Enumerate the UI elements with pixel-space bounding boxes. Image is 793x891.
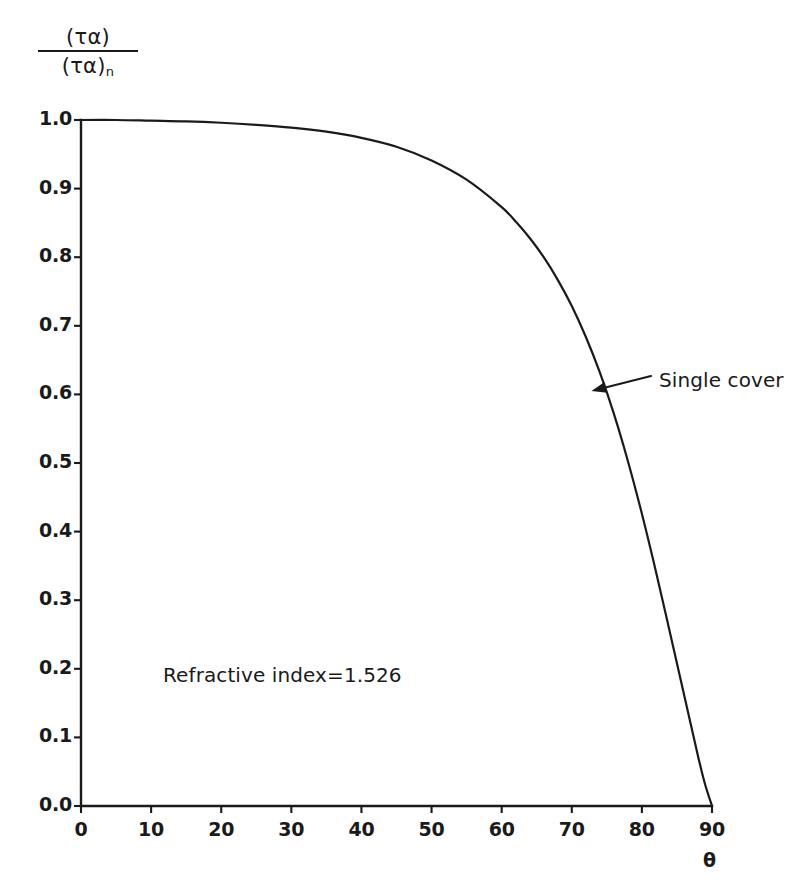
plot-area xyxy=(0,0,793,891)
axis-lines xyxy=(81,120,712,806)
annotation-arrow-icon xyxy=(591,376,651,393)
chart-figure: (τα) (τα)n 0.00.10.20.30.40.50.60.70.80.… xyxy=(0,0,793,891)
annotation-arrow-head xyxy=(591,382,607,393)
data-curve-single-cover xyxy=(81,120,712,806)
annotation-arrow-shaft xyxy=(603,376,651,388)
axes xyxy=(81,120,712,806)
